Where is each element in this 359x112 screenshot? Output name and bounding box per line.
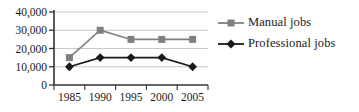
chart-legend: Manual jobs Professional jobs [218,12,359,54]
x-axis [54,85,208,90]
legend-label-manual-jobs: Manual jobs [248,16,311,29]
x-tick-label-2005: 2005 [181,91,204,103]
data-point-professional-1985 [65,62,74,71]
series-professional-jobs [65,53,197,71]
data-point-manual-1990 [97,27,104,34]
x-tick-label-1985: 1985 [58,91,81,103]
line-chart: 40,000 30,000 20,000 10,000 0 1985 1990 … [0,0,359,112]
legend-key-manual-jobs [218,16,244,30]
legend-label-professional-jobs: Professional jobs [248,37,335,50]
x-axis-tick-labels: 1985 1990 1995 2000 2005 [58,91,204,103]
data-point-professional-2000 [157,53,166,62]
x-tick-label-1990: 1990 [89,91,112,103]
data-point-manual-1985 [66,54,73,61]
data-point-manual-2005 [189,36,196,43]
y-tick-label-40000: 40,000 [15,6,47,19]
data-point-professional-2005 [188,62,197,71]
legend-item-manual-jobs: Manual jobs [218,12,359,33]
y-tick-label-0: 0 [41,79,47,91]
x-tick-label-2000: 2000 [150,91,173,103]
y-tick-label-10000: 10,000 [15,61,47,74]
legend-item-professional-jobs: Professional jobs [218,33,359,54]
data-point-manual-2000 [158,36,165,43]
x-tick-label-1995: 1995 [120,91,143,103]
y-tick-label-20000: 20,000 [15,43,47,56]
legend-key-professional-jobs [218,37,244,51]
y-axis [49,10,54,85]
data-point-professional-1995 [127,53,136,62]
y-axis-tick-labels: 40,000 30,000 20,000 10,000 0 [15,6,47,91]
data-point-professional-1990 [96,53,105,62]
y-tick-label-30000: 30,000 [15,24,47,37]
data-point-manual-1995 [128,36,135,43]
